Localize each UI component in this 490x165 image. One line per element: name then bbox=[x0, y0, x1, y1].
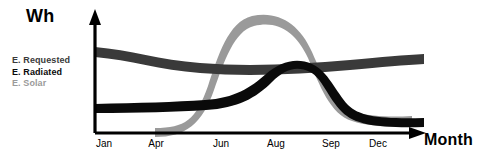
legend-item-radiated: E. Radiated bbox=[12, 67, 90, 79]
x-axis-title: Month bbox=[424, 131, 473, 149]
series-curve-requested bbox=[95, 47, 424, 75]
chart-figure: Wh Month E. Requested E. Radiated E. Sol… bbox=[0, 0, 490, 165]
y-axis-title: Wh bbox=[26, 6, 54, 27]
y-axis-arrowhead bbox=[89, 9, 101, 25]
legend-item-requested: E. Requested bbox=[12, 55, 90, 67]
chart-legend: E. Requested E. Radiated E. Solar bbox=[12, 55, 90, 90]
legend-item-solar: E. Solar bbox=[12, 78, 90, 90]
